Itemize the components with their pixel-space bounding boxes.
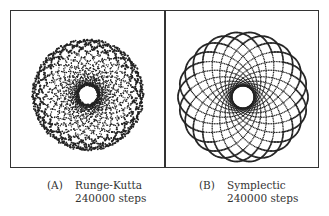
panel-a-orbit-plot	[11, 11, 164, 167]
panel-b-orbit-plot	[166, 11, 318, 167]
caption-b-method: Symplectic	[227, 179, 298, 192]
caption-b-tag: (B)	[199, 179, 215, 192]
caption-b-steps: 240000 steps	[227, 192, 298, 205]
caption-a-tag: (A)	[47, 179, 63, 192]
caption-a-steps: 240000 steps	[75, 192, 146, 205]
caption-a-method: Runge-Kutta	[75, 179, 146, 192]
